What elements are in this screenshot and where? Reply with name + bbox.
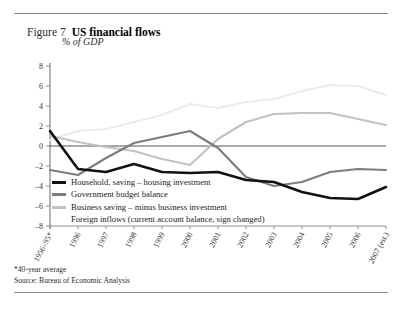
legend-label-business: Business saving – minus business investm… [71, 203, 227, 212]
source-text: Source: Bureau of Economic Analysis [14, 275, 130, 286]
x-axis-tick-label: 2005 [319, 231, 334, 249]
x-axis-tick-label: 1999 [151, 231, 166, 249]
legend-swatch-household [52, 181, 66, 184]
legend-item: Foreign inflows (current account balance… [52, 214, 265, 227]
x-axis-tick-label: 2000 [179, 231, 194, 249]
figure-page: Figure 7US financial flows % of GDP 8642… [0, 0, 402, 310]
footnote-text: *40-year average [14, 264, 130, 275]
y-axis-tick-label: 4 [39, 102, 43, 111]
x-axis-tick-label: 1998 [123, 231, 138, 249]
legend-item: Household, saving – housing investment [52, 176, 265, 189]
series-line [50, 85, 386, 140]
x-axis-tick-label: 1997 [95, 231, 110, 249]
x-axis-tick-label: 2004 [291, 231, 306, 249]
chart-legend: Household, saving – housing investment G… [52, 176, 265, 226]
x-axis-tick-label: 2007 (est.) [367, 230, 391, 265]
bottom-divider-rule [14, 292, 388, 293]
series-line [50, 113, 386, 165]
y-axis-tick-label: –6 [34, 202, 43, 211]
legend-swatch-foreign [52, 218, 66, 221]
x-axis-tick-label: 2006 [347, 231, 362, 249]
x-axis-tick-label: 2003 [263, 231, 278, 249]
x-axis-tick-label: 1996 [67, 231, 82, 249]
legend-item: Business saving – minus business investm… [52, 201, 265, 214]
y-axis-tick-label: 2 [39, 122, 43, 131]
y-axis-tick-label: 8 [39, 62, 43, 71]
legend-swatch-business [52, 206, 66, 209]
y-axis-tick-label: 0 [39, 142, 43, 151]
y-axis-tick-label: –4 [34, 182, 43, 191]
y-axis-tick-label: –2 [34, 162, 43, 171]
x-axis-tick-label: 2001 [207, 231, 222, 249]
legend-item: Government budget balance [52, 189, 265, 202]
legend-label-foreign: Foreign inflows (current account balance… [71, 215, 265, 224]
x-axis-tick-label: 2002 [235, 231, 250, 249]
figure-notes: *40-year average Source: Bureau of Econo… [14, 264, 130, 286]
y-axis-tick-label: 6 [39, 82, 43, 91]
legend-label-household: Household, saving – housing investment [71, 178, 211, 187]
legend-swatch-government [52, 193, 66, 196]
legend-label-government: Government budget balance [71, 190, 168, 199]
y-axis-tick-label: –8 [34, 222, 43, 231]
x-axis-tick-label: 1956–95* [32, 231, 55, 263]
